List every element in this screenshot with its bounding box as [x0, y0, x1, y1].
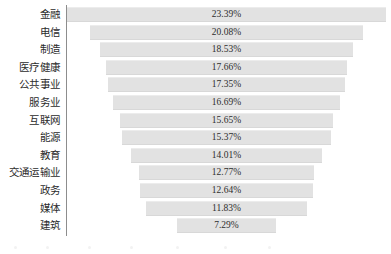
- category-label: 电信: [0, 24, 60, 41]
- chart-row: 能源15.37%: [0, 129, 391, 146]
- bar-value-label: 11.83%: [146, 201, 307, 216]
- bar-value-label: 20.08%: [90, 25, 364, 40]
- bar-value-label: 17.35%: [108, 77, 345, 92]
- bar-value-label: 14.01%: [131, 148, 322, 163]
- funnel-chart: 金融23.39%电信20.08%制造18.53%医疗健康17.66%公共事业17…: [0, 0, 391, 254]
- chart-row: 媒体11.83%: [0, 200, 391, 217]
- category-label: 能源: [0, 129, 60, 146]
- category-label: 公共事业: [0, 76, 60, 93]
- category-label: 教育: [0, 147, 60, 164]
- chart-row: 互联网15.65%: [0, 112, 391, 129]
- category-label: 政务: [0, 182, 60, 199]
- bar-value-label: 23.39%: [67, 7, 386, 22]
- plot-area: 金融23.39%电信20.08%制造18.53%医疗健康17.66%公共事业17…: [0, 0, 391, 254]
- category-label: 金融: [0, 6, 60, 23]
- chart-row: 服务业16.69%: [0, 94, 391, 111]
- bar-value-label: 18.53%: [100, 42, 353, 57]
- category-label: 制造: [0, 41, 60, 58]
- chart-row: 电信20.08%: [0, 24, 391, 41]
- chart-row: 金融23.39%: [0, 6, 391, 23]
- category-label: 互联网: [0, 112, 60, 129]
- category-label: 交通运输业: [0, 164, 60, 181]
- bar-value-label: 17.66%: [106, 60, 347, 75]
- chart-row: 交通运输业12.77%: [0, 164, 391, 181]
- chart-row: 制造18.53%: [0, 41, 391, 58]
- category-label: 医疗健康: [0, 59, 60, 76]
- bar-value-label: 16.69%: [113, 95, 341, 110]
- bar-value-label: 12.64%: [140, 183, 312, 198]
- bar-value-label: 15.37%: [122, 130, 332, 145]
- chart-row: 建筑7.29%: [0, 217, 391, 234]
- chart-row: 政务12.64%: [0, 182, 391, 199]
- category-label: 建筑: [0, 217, 60, 234]
- category-label: 服务业: [0, 94, 60, 111]
- chart-row: 医疗健康17.66%: [0, 59, 391, 76]
- chart-row: 公共事业17.35%: [0, 76, 391, 93]
- bar-value-label: 7.29%: [177, 218, 276, 233]
- chart-row: 教育14.01%: [0, 147, 391, 164]
- bar-value-label: 15.65%: [120, 113, 333, 128]
- category-label: 媒体: [0, 200, 60, 217]
- bar-value-label: 12.77%: [139, 165, 313, 180]
